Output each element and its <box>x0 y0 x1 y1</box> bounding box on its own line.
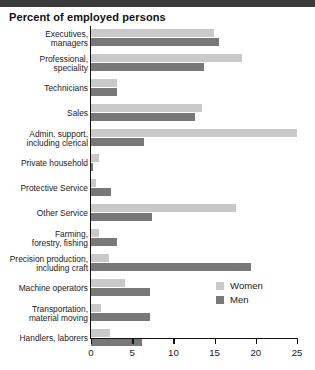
bar-men <box>91 288 150 296</box>
square-swatch-icon <box>216 296 224 304</box>
chart-title: Percent of employed persons <box>9 11 166 23</box>
bar-women <box>91 129 297 137</box>
top-banner-bar <box>0 0 315 7</box>
category-label: Professional,speciality <box>0 54 88 72</box>
y-axis-line <box>90 26 91 339</box>
x-axis-tick <box>132 338 133 344</box>
category-label-line: material moving <box>0 314 88 323</box>
bar-men <box>91 263 251 271</box>
bar-men <box>91 38 219 46</box>
bar-men <box>91 188 111 196</box>
bar-chart-row: Protective Service <box>0 176 315 201</box>
bar-men <box>91 238 117 246</box>
bar-women <box>91 329 110 337</box>
x-axis-tick <box>215 338 216 344</box>
legend-item-men: Men <box>216 293 263 306</box>
bar-chart-row: Farming,forestry, fishing <box>0 226 315 251</box>
x-axis-tick-label: 15 <box>209 347 220 358</box>
bar-women <box>91 104 202 112</box>
x-axis-tick-label: 5 <box>130 347 135 358</box>
category-label: Precision production,including craft <box>0 254 88 272</box>
category-label: Private household <box>0 159 88 168</box>
category-label: Protective Service <box>0 184 88 193</box>
category-label: Technicians <box>0 84 88 93</box>
category-label: Transportation,material moving <box>0 304 88 322</box>
x-axis-tick-label: 20 <box>250 347 261 358</box>
category-label: Farming,forestry, fishing <box>0 229 88 247</box>
bar-chart-row: Professional,speciality <box>0 51 315 76</box>
bar-women <box>91 279 125 287</box>
category-label-line: Technicians <box>0 84 88 93</box>
bar-men <box>91 113 195 121</box>
bar-women <box>91 304 101 312</box>
bar-chart-row: Sales <box>0 101 315 126</box>
legend-label-women: Women <box>230 280 263 291</box>
bar-women <box>91 204 236 212</box>
bar-men <box>91 213 152 221</box>
bar-women <box>91 79 117 87</box>
x-axis-tick <box>173 338 174 344</box>
category-label-line: including clerical <box>0 139 88 148</box>
category-label: Other Service <box>0 209 88 218</box>
bar-chart-row: Private household <box>0 151 315 176</box>
bar-chart-row: Machine operators <box>0 276 315 301</box>
bar-women <box>91 29 214 37</box>
x-axis-tick-label: 10 <box>168 347 179 358</box>
bar-chart-row: Other Service <box>0 201 315 226</box>
category-label-line: speciality <box>0 64 88 73</box>
category-label-line: Handlers, laborers <box>0 334 88 343</box>
category-label-line: including craft <box>0 264 88 273</box>
x-axis-line <box>90 338 298 339</box>
bar-women <box>91 54 242 62</box>
x-axis-tick-label: 0 <box>88 347 93 358</box>
category-label-line: managers <box>0 39 88 48</box>
legend-label-men: Men <box>230 294 249 305</box>
category-label: Machine operators <box>0 284 88 293</box>
category-label: Admin. support,including clerical <box>0 129 88 147</box>
category-label: Executives,managers <box>0 29 88 47</box>
category-label-line: forestry, fishing <box>0 239 88 248</box>
bar-chart-plot-area: Executives,managersProfessional,speciali… <box>0 26 315 339</box>
category-label-line: Sales <box>0 109 88 118</box>
bar-men <box>91 63 204 71</box>
bar-women <box>91 254 109 262</box>
category-label-line: Machine operators <box>0 284 88 293</box>
bar-chart-row: Precision production,including craft <box>0 251 315 276</box>
bar-chart-row: Technicians <box>0 76 315 101</box>
legend-item-women: Women <box>216 279 263 292</box>
category-label: Handlers, laborers <box>0 334 88 343</box>
category-label: Sales <box>0 109 88 118</box>
chart-legend: Women Men <box>216 279 263 307</box>
bar-men <box>91 88 117 96</box>
category-label-line: Private household <box>0 159 88 168</box>
bar-chart-row: Executives,managers <box>0 26 315 51</box>
bar-women <box>91 229 99 237</box>
bar-women <box>91 179 96 187</box>
category-label-line: Protective Service <box>0 184 88 193</box>
bar-men <box>91 138 144 146</box>
category-label-line: Other Service <box>0 209 88 218</box>
x-axis-tick <box>256 338 257 344</box>
square-swatch-icon <box>216 282 224 290</box>
bar-chart-row: Admin. support,including clerical <box>0 126 315 151</box>
bar-chart-row: Transportation,material moving <box>0 301 315 326</box>
bar-men <box>91 313 150 321</box>
x-axis-tick-label: 25 <box>292 347 303 358</box>
x-axis-tick <box>297 338 298 344</box>
x-axis-tick <box>91 338 92 344</box>
bar-women <box>91 154 99 162</box>
